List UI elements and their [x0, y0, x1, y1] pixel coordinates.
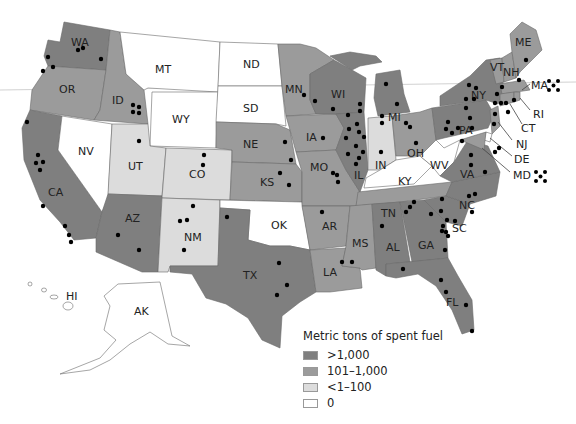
label-nh: NH	[503, 66, 520, 79]
label-al: AL	[386, 241, 401, 254]
legend-swatch	[303, 399, 318, 408]
legend-swatch	[303, 367, 318, 376]
legend: Metric tons of spent fuel >1,000 101–1,0…	[303, 329, 453, 411]
label-ms: MS	[352, 237, 368, 250]
label-az: AZ	[125, 212, 141, 225]
label-hi: HI	[66, 290, 78, 303]
label-wi: WI	[331, 88, 345, 101]
label-pa: PA	[459, 124, 473, 137]
label-ma: MA	[531, 79, 548, 92]
label-me: ME	[515, 36, 531, 49]
legend-label: 0	[327, 396, 334, 410]
legend-swatch	[303, 383, 318, 392]
label-ca: CA	[48, 186, 64, 199]
label-wv: WV	[430, 159, 449, 172]
legend-label: 101–1,000	[327, 364, 388, 378]
label-mo: MO	[310, 161, 328, 174]
label-fl: FL	[446, 296, 459, 309]
label-ky: KY	[398, 175, 412, 188]
label-wa: WA	[71, 36, 89, 49]
label-ga: GA	[418, 239, 435, 252]
label-la: LA	[323, 266, 337, 279]
label-nj: NJ	[516, 138, 527, 151]
legend-swatch	[303, 351, 318, 360]
label-mi: MI	[388, 111, 401, 124]
spent-fuel-map: WA OR CA ID NV MT WY UT AZ CO NM ND SD N…	[0, 0, 576, 424]
label-ri: RI	[533, 108, 544, 121]
state-az[interactable]	[96, 194, 162, 272]
label-co: CO	[189, 168, 206, 181]
label-id: ID	[112, 94, 124, 107]
state-nj[interactable]	[490, 106, 500, 134]
label-ia: IA	[306, 131, 317, 144]
label-mn: MN	[285, 83, 303, 96]
label-de: DE	[514, 153, 529, 166]
legend-title: Metric tons of spent fuel	[303, 329, 453, 343]
label-tn: TN	[380, 207, 396, 220]
label-il: IL	[354, 169, 364, 182]
state-hi[interactable]	[63, 302, 73, 310]
md-dot-cluster	[534, 170, 547, 183]
label-ok: OK	[271, 219, 288, 232]
legend-label: >1,000	[327, 348, 370, 362]
label-wy: WY	[172, 113, 190, 126]
label-nm: NM	[184, 231, 202, 244]
state-mi[interactable]	[374, 70, 410, 116]
label-nd: ND	[243, 58, 260, 71]
legend-item: 101–1,000	[303, 363, 453, 379]
label-or: OR	[59, 83, 76, 96]
legend-item: <1–100	[303, 379, 453, 395]
legend-item: >1,000	[303, 347, 453, 363]
label-tx: TX	[242, 269, 258, 282]
hi-island	[28, 282, 32, 286]
label-in: IN	[375, 159, 386, 172]
label-sc: SC	[452, 222, 467, 235]
legend-label: <1–100	[327, 380, 372, 394]
label-ks: KS	[260, 176, 274, 189]
hi-island	[50, 295, 58, 299]
legend-item: 0	[303, 395, 453, 411]
state-ak[interactable]	[60, 282, 190, 374]
label-mt: MT	[155, 63, 171, 76]
label-oh: OH	[407, 147, 424, 160]
label-sd: SD	[243, 102, 258, 115]
ma-dot-cluster	[547, 79, 560, 92]
label-va: VA	[460, 168, 475, 181]
label-md: MD	[513, 169, 531, 182]
hi-island	[42, 288, 47, 292]
label-ut: UT	[128, 160, 143, 173]
label-ne: NE	[243, 138, 258, 151]
label-nv: NV	[78, 145, 94, 158]
label-ak: AK	[134, 305, 150, 318]
state-fl[interactable]	[386, 258, 474, 334]
label-ct: CT	[521, 122, 536, 135]
label-ar: AR	[322, 220, 338, 233]
